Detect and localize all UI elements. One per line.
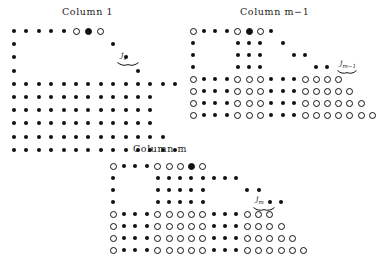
- dot-fill: [202, 89, 206, 93]
- dot-open: [110, 163, 117, 170]
- dot-fill: [99, 121, 103, 125]
- dot-fill: [167, 188, 171, 192]
- dot-fill: [257, 188, 261, 192]
- dot-fill: [191, 41, 195, 45]
- dot-fill: [247, 41, 251, 45]
- dot-fill: [12, 121, 16, 125]
- dot-fill: [167, 200, 171, 204]
- dot-open: [324, 88, 331, 95]
- dot-fill: [148, 108, 152, 112]
- dot-fill: [37, 135, 41, 139]
- dot-open: [190, 28, 197, 35]
- dot-fill: [148, 95, 152, 99]
- dot-fill: [74, 121, 78, 125]
- dot-fill: [225, 113, 229, 117]
- dot-open: [188, 235, 195, 242]
- dot-open: [190, 100, 197, 107]
- dot-fill: [99, 108, 103, 112]
- dot-open: [324, 76, 331, 83]
- dot-fill: [133, 224, 137, 228]
- dot-open: [335, 100, 342, 107]
- dot-fill: [111, 42, 115, 46]
- dot-fill: [12, 69, 16, 73]
- dot-fill: [49, 108, 53, 112]
- dot-open: [358, 112, 365, 119]
- dot-fill: [225, 101, 229, 105]
- dot-fill: [223, 176, 227, 180]
- dot-fill: [62, 135, 66, 139]
- dot-fill: [167, 176, 171, 180]
- dot-fill: [124, 148, 128, 152]
- dot-open: [190, 76, 197, 83]
- dot-open: [302, 100, 309, 107]
- dot-fill: [133, 164, 137, 168]
- dot-fill: [156, 188, 160, 192]
- dot-fill: [24, 148, 28, 152]
- dot-open: [166, 247, 173, 254]
- dot-open: [110, 247, 117, 254]
- dot-open: [244, 211, 251, 218]
- dot-open: [177, 163, 184, 170]
- dot-open: [278, 235, 285, 242]
- dot-fill: [189, 200, 193, 204]
- dot-fill: [62, 148, 66, 152]
- dot-fill: [37, 121, 41, 125]
- dot-fill: [124, 135, 128, 139]
- dot-fill: [223, 212, 227, 216]
- dot-open: [177, 211, 184, 218]
- dot-fill: [234, 236, 238, 240]
- dot-fill: [202, 113, 206, 117]
- dot-fill: [37, 29, 41, 33]
- dot-fill: [201, 188, 205, 192]
- dot-fill: [225, 77, 229, 81]
- dot-open: [234, 28, 241, 35]
- dot-fill: [24, 121, 28, 125]
- dot-open: [154, 211, 161, 218]
- dot-open: [166, 163, 173, 170]
- dot-fill: [269, 29, 273, 33]
- dot-fill: [111, 108, 115, 112]
- dot-fill: [12, 29, 16, 33]
- dot-fill: [124, 95, 128, 99]
- dot-fill: [24, 29, 28, 33]
- dot-fill: [136, 135, 140, 139]
- figure-canvas: Column 1 j1 Column m−1 jm−1 Column m jm: [0, 0, 376, 267]
- dot-fill: [234, 248, 238, 252]
- dot-fill: [111, 200, 115, 204]
- dot-fill: [111, 176, 115, 180]
- dot-fill: [212, 176, 216, 180]
- dot-fill: [111, 95, 115, 99]
- dot-fill: [178, 200, 182, 204]
- dot-open: [324, 100, 331, 107]
- dot-open: [246, 112, 253, 119]
- dot-open: [166, 223, 173, 230]
- dot-open: [257, 88, 264, 95]
- dot-fill: [49, 135, 53, 139]
- dot-open: [154, 247, 161, 254]
- dot-open: [257, 100, 264, 107]
- dot-open: [255, 247, 262, 254]
- dot-open: [324, 112, 331, 119]
- dot-open: [257, 76, 264, 83]
- dot-fill: [37, 95, 41, 99]
- dot-fill: [86, 82, 90, 86]
- dot-fill: [178, 176, 182, 180]
- dot-fill: [74, 95, 78, 99]
- dot-open: [313, 76, 320, 83]
- dot-fill: [223, 248, 227, 252]
- dot-fill: [213, 101, 217, 105]
- dot-fill: [281, 101, 285, 105]
- dot-fill: [223, 224, 227, 228]
- dot-fill: [62, 29, 66, 33]
- brace-column-m: [253, 207, 275, 213]
- dot-fill: [49, 82, 53, 86]
- dot-fill: [74, 135, 78, 139]
- dot-open: [257, 28, 264, 35]
- dot-open: [300, 247, 307, 254]
- dot-open: [154, 235, 161, 242]
- dot-fill: [136, 95, 140, 99]
- dot-fill: [49, 148, 53, 152]
- dot-open: [199, 247, 206, 254]
- dot-fill: [213, 77, 217, 81]
- dot-fill: [122, 164, 126, 168]
